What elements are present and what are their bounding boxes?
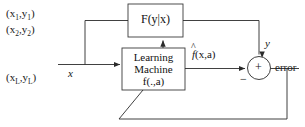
training-sample-L: (xL,yL) bbox=[6, 72, 36, 83]
signal-label-y: y bbox=[265, 38, 270, 49]
learning-machine-label-line-3: f(.,a) bbox=[122, 76, 185, 88]
signal-label-f-hat: f(x,a) bbox=[192, 48, 216, 60]
learning-machine-diagram: (x1,y1) (x2,y2) (xL,yL) F(y|x) Learning … bbox=[0, 0, 305, 127]
learning-machine-label-line-2: Machine bbox=[122, 64, 185, 76]
learning-machine-label-line-1: Learning bbox=[122, 52, 185, 64]
training-sample-2: (x2,y2) bbox=[6, 24, 35, 35]
training-sample-1: (x1,y1) bbox=[6, 8, 35, 19]
summing-junction-minus-sign: − bbox=[240, 73, 247, 85]
summing-junction-plus-sign: + bbox=[255, 61, 262, 73]
generator-label: F(y|x) bbox=[128, 14, 183, 26]
signal-label-error: error bbox=[275, 62, 296, 73]
f-hat-args: (x,a) bbox=[195, 48, 215, 60]
f-hat-symbol: f bbox=[192, 48, 195, 60]
signal-label-x: x bbox=[68, 68, 73, 79]
